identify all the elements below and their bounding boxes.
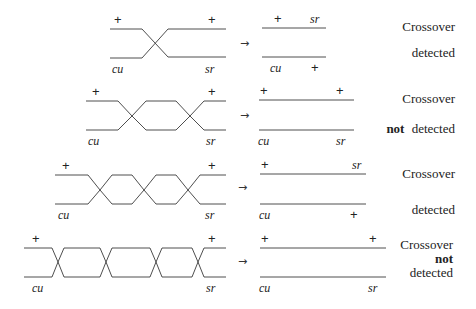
crossover-diagram: + + cu sr → + sr cu + Crossover detected… — [0, 0, 476, 309]
row-1: + + cu sr → + sr cu + Crossover detected — [110, 11, 456, 76]
cu-label: cu — [32, 281, 43, 295]
plus-marker: + — [208, 12, 216, 27]
arrow-icon: → — [240, 109, 249, 122]
strand-top — [24, 248, 226, 262]
cu-label: cu — [88, 134, 99, 148]
plus-marker: + — [32, 231, 40, 246]
strand-bottom — [110, 29, 226, 58]
result-bottom-right: sr — [336, 134, 346, 148]
row-3: + + cu sr → + sr cu + Crossover detected — [55, 157, 456, 222]
row-4: + + cu sr → + + cu sr Crossover not dete… — [24, 231, 454, 295]
cu-label: cu — [112, 62, 123, 76]
arrow-icon: → — [238, 181, 247, 194]
plus-marker: + — [92, 84, 100, 99]
sr-label: sr — [205, 62, 215, 76]
caption-line-1: Crossover — [400, 237, 453, 252]
arrow-icon: → — [240, 37, 249, 50]
caption-line-1: Crossover — [402, 91, 455, 106]
result-bottom-right: sr — [368, 281, 378, 295]
result-top-left: + — [261, 231, 269, 246]
result-bottom-left: cu — [270, 61, 281, 75]
caption-line-2: not detected — [386, 121, 455, 136]
result-top-left: + — [260, 83, 268, 98]
strand-bottom — [86, 116, 226, 130]
strand-bottom — [24, 262, 226, 277]
result-bottom-left: cu — [258, 134, 269, 148]
result-bottom-left: cu — [259, 281, 270, 295]
strand-top — [55, 175, 226, 190]
plus-marker: + — [114, 12, 122, 27]
cu-label: cu — [58, 208, 69, 222]
sr-label: sr — [206, 134, 216, 148]
strand-top — [86, 101, 226, 116]
caption-not: not — [386, 121, 405, 136]
plus-marker: + — [208, 231, 216, 246]
result-top-left: + — [261, 157, 269, 172]
caption-line-2: detected — [412, 45, 456, 60]
strand-top — [110, 29, 226, 57]
sr-label: sr — [206, 281, 216, 295]
result-top-left: + — [274, 11, 282, 26]
result-top-right: + — [336, 83, 344, 98]
plus-marker: + — [62, 158, 70, 173]
caption-detected: detected — [412, 121, 456, 136]
result-bottom-right: + — [350, 207, 358, 222]
result-top-right: + — [369, 231, 377, 246]
caption-not: not — [435, 251, 454, 266]
sr-label: sr — [205, 208, 215, 222]
plus-marker: + — [208, 158, 216, 173]
row-1-input-strands — [110, 29, 226, 58]
caption-line-3: detected — [410, 265, 454, 280]
row-2: + + cu sr → + + cu sr Crossover not dete… — [86, 83, 456, 148]
caption-line-2: detected — [412, 202, 456, 217]
caption-line-1: Crossover — [402, 19, 455, 34]
arrow-icon: → — [238, 255, 247, 268]
result-top-right: sr — [310, 12, 320, 26]
plus-marker: + — [208, 84, 216, 99]
result-bottom-left: cu — [259, 208, 270, 222]
strand-bottom — [55, 190, 226, 204]
caption-line-1: Crossover — [402, 166, 455, 181]
result-top-right: sr — [352, 158, 362, 172]
result-bottom-right: + — [311, 60, 319, 75]
